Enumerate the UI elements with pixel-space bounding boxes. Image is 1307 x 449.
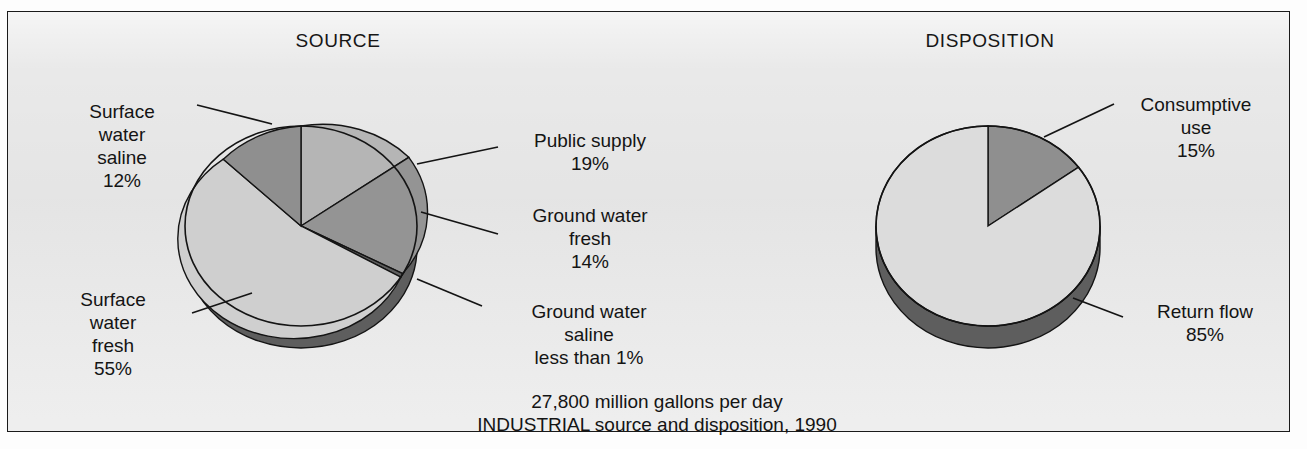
slice-return-flow bbox=[876, 126, 1100, 326]
label-value: 12% bbox=[46, 169, 198, 192]
leader-ground-water-fresh bbox=[421, 212, 498, 234]
pie-source bbox=[178, 124, 428, 348]
label-line: Surface bbox=[46, 100, 198, 123]
label-line: saline bbox=[489, 323, 689, 346]
pie-disposition-side-wall bbox=[876, 226, 1100, 348]
pie-source-outline bbox=[185, 126, 417, 326]
label-ground-water-fresh: Ground water fresh 14% bbox=[505, 204, 675, 273]
label-line: water bbox=[46, 123, 198, 146]
label-line: fresh bbox=[38, 334, 188, 357]
leader-public-supply bbox=[417, 147, 498, 164]
leader-surface-water-fresh bbox=[192, 293, 252, 313]
panel-title-disposition: DISPOSITION bbox=[925, 30, 1054, 52]
caption-line-1: 27,800 million gallons per day bbox=[477, 390, 836, 413]
leader-return-flow bbox=[1073, 298, 1123, 317]
slice-surface-water-fresh bbox=[178, 159, 401, 338]
leader-surface-water-saline bbox=[197, 105, 272, 124]
label-line: Ground water bbox=[489, 300, 689, 323]
leader-consumptive-use bbox=[1044, 104, 1114, 137]
label-public-supply: Public supply 19% bbox=[505, 129, 675, 175]
slice-ground-water-fresh bbox=[301, 157, 428, 273]
figure-caption: 27,800 million gallons per day INDUSTRIA… bbox=[477, 390, 836, 436]
pie-source-side-wall bbox=[185, 226, 417, 348]
label-value: less than 1% bbox=[489, 346, 689, 369]
panel-title-source: SOURCE bbox=[296, 30, 381, 52]
label-line: saline bbox=[46, 146, 198, 169]
label-value: 55% bbox=[38, 357, 188, 380]
leader-ground-water-saline bbox=[417, 279, 482, 306]
label-consumptive-use: Consumptive use 15% bbox=[1121, 93, 1271, 162]
label-ground-water-saline: Ground water saline less than 1% bbox=[489, 300, 689, 369]
slice-ground-water-saline bbox=[301, 226, 403, 277]
label-surface-water-saline: Surface water saline 12% bbox=[46, 100, 198, 192]
label-line: use bbox=[1121, 116, 1271, 139]
label-line: Ground water bbox=[505, 204, 675, 227]
label-value: 14% bbox=[505, 250, 675, 273]
caption-line-2: INDUSTRIAL source and disposition, 1990 bbox=[477, 413, 836, 436]
label-value: 85% bbox=[1130, 323, 1280, 346]
label-line: Surface bbox=[38, 288, 188, 311]
figure-frame: SOURCE DISPOSITION bbox=[7, 11, 1290, 432]
pie-disposition bbox=[876, 126, 1100, 348]
label-line: Return flow bbox=[1130, 300, 1280, 323]
slice-public-supply bbox=[301, 124, 409, 226]
label-line: Public supply bbox=[505, 129, 675, 152]
label-surface-water-fresh: Surface water fresh 55% bbox=[38, 288, 188, 380]
pie-disposition-outline bbox=[876, 126, 1100, 326]
label-value: 15% bbox=[1121, 139, 1271, 162]
label-line: Consumptive bbox=[1121, 93, 1271, 116]
label-line: fresh bbox=[505, 227, 675, 250]
slice-surface-water-saline bbox=[223, 126, 301, 226]
label-return-flow: Return flow 85% bbox=[1130, 300, 1280, 346]
figure-root: SOURCE DISPOSITION bbox=[0, 0, 1307, 449]
label-value: 19% bbox=[505, 152, 675, 175]
slice-consumptive-use bbox=[988, 126, 1079, 226]
label-line: water bbox=[38, 311, 188, 334]
